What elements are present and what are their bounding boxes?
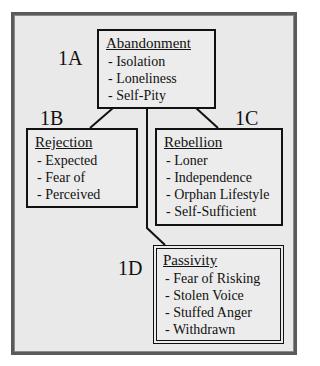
node-rejection: Rejection - Expected - Fear of - Perceiv… (26, 128, 138, 208)
node-title: Abandonment (106, 35, 214, 52)
node-title: Rebellion (164, 134, 281, 151)
node-item: - Isolation (108, 53, 214, 70)
node-item: - Loner (166, 152, 281, 169)
node-items: - Loner - Independence - Orphan Lifestyl… (164, 152, 281, 220)
node-item: - Fear of (37, 169, 136, 186)
node-passivity: Passivity - Fear of Risking - Stolen Voi… (153, 245, 284, 344)
node-label-1a: 1A (58, 48, 82, 68)
node-label-1d: 1D (118, 258, 142, 278)
node-items: - Fear of Risking - Stolen Voice - Stuff… (163, 270, 280, 338)
node-item: - Orphan Lifestyle (166, 186, 281, 203)
node-title: Rejection (35, 134, 136, 151)
node-item: - Loneliness (108, 70, 214, 87)
node-abandonment: Abandonment - Isolation - Loneliness - S… (97, 29, 216, 109)
node-item: - Perceived (37, 186, 136, 203)
edge-1a-1b (90, 108, 113, 128)
node-item: - Self-Sufficient (166, 203, 281, 220)
node-item: - Expected (37, 152, 136, 169)
node-label-1b: 1B (40, 108, 63, 128)
node-rebellion: Rebellion - Loner - Independence - Orpha… (155, 128, 283, 226)
node-item: - Independence (166, 169, 281, 186)
edge-1a-1c (196, 108, 218, 128)
node-title: Passivity (163, 252, 280, 269)
node-item: - Stolen Voice (165, 287, 280, 304)
node-label-1c: 1C (235, 108, 258, 128)
node-item: - Fear of Risking (165, 270, 280, 287)
node-items: - Expected - Fear of - Perceived (35, 152, 136, 203)
node-item: - Withdrawn (165, 321, 280, 338)
node-item: - Self-Pity (108, 87, 214, 104)
node-item: - Stuffed Anger (165, 304, 280, 321)
node-items: - Isolation - Loneliness - Self-Pity (106, 53, 214, 104)
